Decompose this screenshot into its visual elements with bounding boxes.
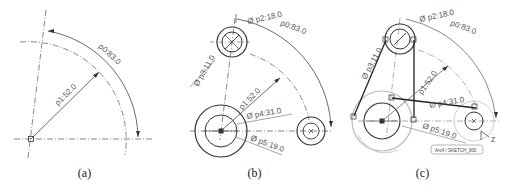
caption-c: (c): [338, 166, 507, 181]
dim-rho1-c: ρ1:52.0: [416, 69, 439, 97]
panel-a: ρ1:52.0 ρ0:83.0 (a): [0, 0, 169, 193]
caption-b: (b): [170, 166, 339, 181]
dim-p2-c: Ø p2:18.0: [419, 8, 456, 24]
dim-rho1-a: ρ1:52.0: [53, 82, 79, 108]
dim-rho1-b: ρ1:52.0: [237, 86, 263, 112]
dim-p4-c: Ø p4:31.0: [429, 95, 466, 110]
axis-z-label: Z: [491, 136, 496, 143]
caption-a: (a): [0, 166, 169, 181]
panel-c: Ø p3:11.0 Ø p2:18.0 ρ0:83.0 ρ1:52.0 Ø p4…: [338, 0, 507, 193]
panel-b: Ø p3:11.0 Ø p2:18.0 ρ0:83.0 ρ1:52.0 Ø p4…: [170, 0, 339, 193]
dim-p3-c: Ø p3:11.0: [360, 46, 384, 81]
dim-p5-b: Ø p5:19.0: [249, 133, 286, 154]
sketch-b-drawing: Ø p3:11.0 Ø p2:18.0 ρ0:83.0 ρ1:52.0 Ø p4…: [170, 0, 339, 193]
dim-rho0-a: ρ0:83.0: [97, 42, 123, 67]
dim-p5-c: Ø p5:19.0: [421, 121, 458, 141]
dim-p2-b: Ø p2:18.0: [247, 10, 284, 26]
sketch-c-drawing: Ø p3:11.0 Ø p2:18.0 ρ0:83.0 ρ1:52.0 Ø p4…: [338, 0, 507, 193]
dim-rho0-c: ρ0:83.0: [449, 18, 478, 36]
sketch-tag: Arc4 / SKETCH_000: [435, 148, 477, 153]
dim-p3-b: Ø p3:11.0: [192, 53, 217, 88]
sketch-a-drawing: ρ1:52.0 ρ0:83.0: [0, 0, 169, 193]
dim-p4-b: Ø p4:31.0: [246, 106, 283, 121]
axis-triad-icon: Z: [481, 131, 496, 143]
dim-rho0-b: ρ0:83.0: [279, 18, 308, 36]
